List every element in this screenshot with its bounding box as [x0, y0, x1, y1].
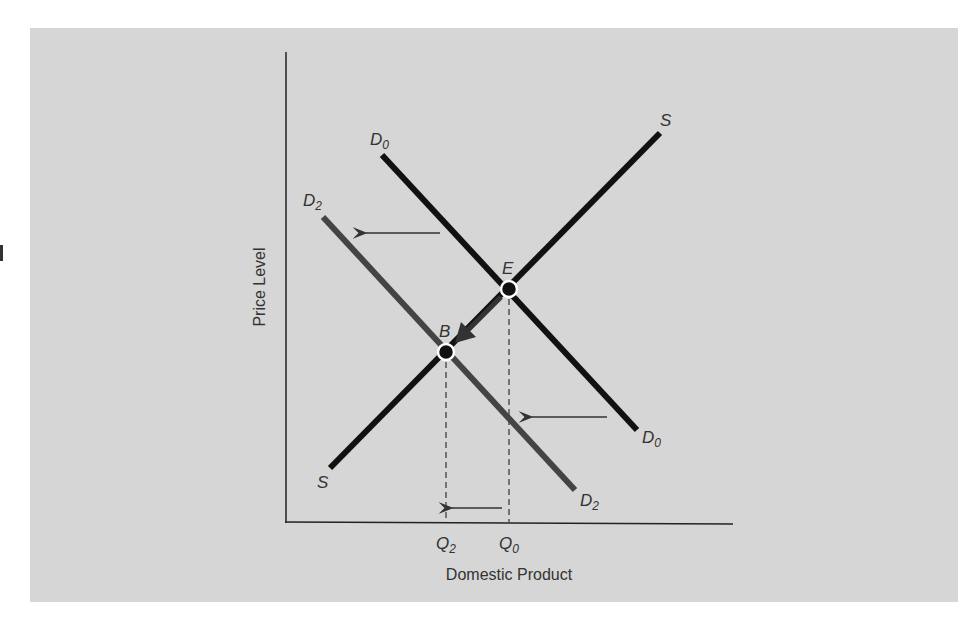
point-e: [501, 281, 517, 297]
label-s-top: S: [660, 111, 672, 130]
aggregate-demand-supply-diagram: D0 D2 S S D0 D2 E B Q2 Q0 Domestic Produ…: [0, 0, 975, 625]
tick-q0: Q0: [499, 534, 519, 556]
point-b: [438, 344, 454, 360]
label-d0-top: D0: [370, 130, 389, 152]
x-axis-label: Domestic Product: [446, 566, 573, 583]
label-e: E: [502, 259, 514, 278]
y-axis-label: Price Level: [251, 247, 268, 326]
label-d0-bottom: D0: [642, 428, 661, 450]
label-s-bottom: S: [317, 473, 329, 492]
equilibrium-move-arrow: [464, 297, 501, 334]
x-axis: [285, 522, 733, 524]
label-d2-top: D2: [303, 191, 322, 213]
label-d2-bottom: D2: [580, 491, 599, 513]
label-b: B: [439, 322, 450, 341]
tick-q2: Q2: [436, 534, 456, 556]
